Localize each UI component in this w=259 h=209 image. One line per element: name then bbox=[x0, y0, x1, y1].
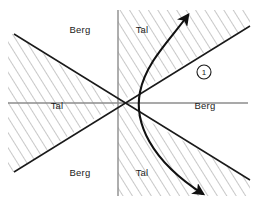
label-berg-right: Berg bbox=[195, 100, 216, 111]
label-tal-left: Tal bbox=[51, 100, 64, 111]
callout-label: 1 bbox=[202, 68, 207, 77]
diagram-canvas: Berg Tal Tal Berg Berg Tal 1 bbox=[0, 0, 259, 209]
label-berg-bottom-left: Berg bbox=[70, 167, 91, 178]
label-tal-bottom-right: Tal bbox=[136, 167, 149, 178]
label-tal-top-right: Tal bbox=[136, 24, 149, 35]
callout-marker-1: 1 bbox=[197, 65, 211, 79]
label-berg-top-left: Berg bbox=[70, 24, 91, 35]
diagram-svg: Berg Tal Tal Berg Berg Tal 1 bbox=[0, 0, 259, 209]
